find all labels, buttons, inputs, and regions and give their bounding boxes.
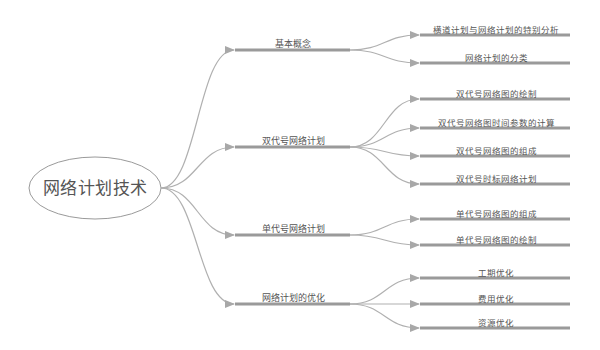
leaf-label[interactable]: 资源优化 (420, 316, 572, 328)
branch-to-leaf-connector (350, 147, 419, 184)
leaf-label[interactable]: 单代号网络图的绘制 (420, 233, 572, 245)
branch-to-leaf-connector (350, 35, 419, 50)
root-to-branch-connector (161, 188, 234, 304)
root-connectors (161, 50, 234, 304)
leaf-label[interactable]: 单代号网络图的组成 (420, 207, 572, 219)
leaf-label[interactable]: 双代号网络图时间参数的计算 (420, 116, 572, 128)
leaf-label[interactable]: 双代号时标网络计划 (420, 172, 572, 184)
leaf-label[interactable]: 工期优化 (420, 266, 572, 278)
leaf-label[interactable]: 双代号网络图的绘制 (420, 87, 572, 99)
branch-to-leaf-connector (350, 99, 419, 147)
branch-to-leaf-connector (350, 128, 419, 147)
root-to-branch-connector (161, 147, 234, 188)
root-to-branch-connector (161, 188, 234, 235)
branch-to-leaf-connector (350, 278, 419, 304)
branch-lines (235, 50, 350, 304)
leaf-label[interactable]: 费用优化 (420, 292, 572, 304)
branch-connectors (350, 35, 419, 328)
leaf-label[interactable]: 双代号网络图的组成 (420, 144, 572, 156)
branch-label-optimization[interactable]: 网络计划的优化 (235, 291, 351, 304)
branch-to-leaf-connector (350, 304, 419, 328)
branch-label-basic-concepts[interactable]: 基本概念 (235, 37, 351, 50)
branch-to-leaf-connector (350, 219, 419, 235)
branch-to-leaf-connector (350, 235, 419, 245)
root-node-label: 网络计划技术 (30, 174, 160, 199)
leaf-label[interactable]: 网络计划的分类 (420, 51, 572, 63)
branch-label-double-code[interactable]: 双代号网络计划 (235, 134, 351, 147)
leaf-label[interactable]: 横道计划与网络计划的特别分析 (420, 23, 572, 35)
branch-to-leaf-connector (350, 50, 419, 63)
branch-label-single-code[interactable]: 单代号网络计划 (235, 222, 351, 235)
